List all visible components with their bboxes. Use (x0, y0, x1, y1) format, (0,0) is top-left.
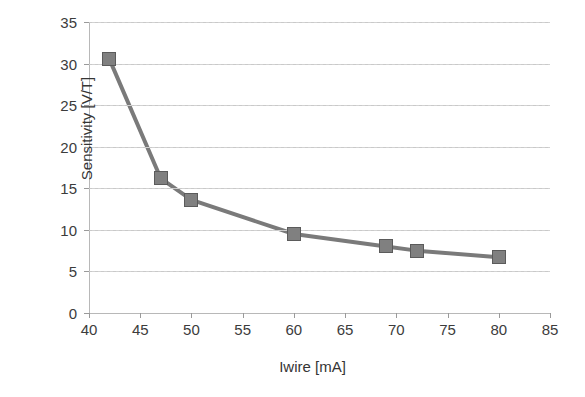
data-point-marker (379, 239, 393, 253)
gridline-horizontal (89, 64, 550, 65)
x-axis-tick (89, 313, 90, 318)
y-axis-tick-label: 20 (60, 140, 77, 155)
gridline-horizontal (89, 230, 550, 231)
y-axis-tick-label: 35 (60, 15, 77, 30)
y-axis-tick-label-group: 05101520253035 (0, 0, 77, 397)
x-axis-tick (191, 313, 192, 318)
gridline-horizontal (89, 188, 550, 189)
x-axis-title: Iwire [mA] (0, 358, 585, 375)
plot-area (89, 22, 550, 313)
x-axis-tick-label: 65 (337, 322, 354, 337)
y-axis-tick (84, 105, 89, 106)
chart-container: 05101520253035 40455055606570758085 Sens… (0, 0, 585, 397)
y-axis-tick-label: 25 (60, 98, 77, 113)
y-axis-tick-label: 30 (60, 57, 77, 72)
x-axis-tick (499, 313, 500, 318)
x-axis-tick-label: 70 (388, 322, 405, 337)
series-line-path (89, 22, 550, 313)
x-axis-tick (550, 313, 551, 318)
x-axis-tick (294, 313, 295, 318)
y-axis-tick (84, 188, 89, 189)
y-axis-tick (84, 147, 89, 148)
y-axis-tick-label: 0 (69, 306, 77, 321)
data-point-marker (287, 227, 301, 241)
y-axis-tick (84, 271, 89, 272)
x-axis-tick (396, 313, 397, 318)
x-axis-tick-label: 40 (81, 322, 98, 337)
y-axis-title: Sensitivity [V/T] (78, 29, 95, 229)
y-axis-tick-label: 15 (60, 181, 77, 196)
y-axis-tick (84, 64, 89, 65)
y-axis-tick-label: 10 (60, 223, 77, 238)
x-axis-tick-label: 85 (542, 322, 559, 337)
x-axis-tick-label: 80 (490, 322, 507, 337)
x-axis-tick-label: 50 (183, 322, 200, 337)
gridline-horizontal (89, 147, 550, 148)
data-point-marker (102, 52, 116, 66)
x-axis-tick (448, 313, 449, 318)
y-axis-tick (84, 22, 89, 23)
series-polyline (109, 59, 498, 257)
data-point-marker (184, 193, 198, 207)
x-axis-tick-label: 45 (132, 322, 149, 337)
gridline-horizontal (89, 22, 550, 23)
x-axis-tick-label: 75 (439, 322, 456, 337)
data-point-marker (154, 171, 168, 185)
x-axis-line (89, 313, 550, 314)
data-point-marker (410, 244, 424, 258)
gridline-horizontal (89, 271, 550, 272)
x-axis-tick (243, 313, 244, 318)
gridline-horizontal (89, 105, 550, 106)
data-point-marker (492, 250, 506, 264)
y-axis-tick-label: 5 (69, 264, 77, 279)
x-axis-tick-label: 55 (234, 322, 251, 337)
x-axis-tick (140, 313, 141, 318)
x-axis-tick (345, 313, 346, 318)
x-axis-tick-label: 60 (286, 322, 303, 337)
y-axis-tick (84, 230, 89, 231)
